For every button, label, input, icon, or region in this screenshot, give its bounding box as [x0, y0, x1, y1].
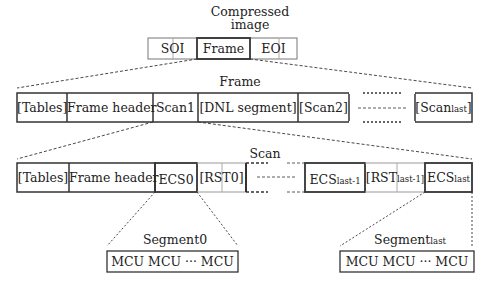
rst-prev-sub: last-1]: [397, 174, 424, 184]
segment0-label: Segment0: [130, 232, 220, 247]
ecs-last-text: ECS: [427, 170, 454, 185]
rst0-cell: [RST0]: [197, 170, 246, 185]
title-line2: image: [200, 17, 300, 32]
compressed-image-title: Compressed image: [200, 4, 300, 32]
scan-last-sub: last: [451, 104, 467, 114]
scan-last-close: ]: [467, 100, 472, 115]
scan-last-text: [Scan: [415, 100, 451, 115]
segment-last-sub: last: [430, 236, 446, 246]
rst-last-1-cell: [RSTlast-1]: [365, 170, 425, 185]
frame-cell: Frame: [197, 41, 250, 56]
ecs-last-sub: last: [454, 174, 470, 184]
frame-header-cell: Frame header: [67, 100, 153, 115]
ecs-prev-text: ECS: [309, 172, 336, 187]
scan2-cell: [Scan2]: [298, 100, 349, 115]
dnl-segment-cell: [DNL segment]: [198, 100, 298, 115]
scan-last-cell: [Scanlast]: [415, 100, 472, 115]
ecs-last-1-cell: ECSlast-1: [305, 172, 365, 187]
segment-last-content: MCU MCU ··· MCU: [340, 254, 474, 269]
scan-tables-cell: [Tables]: [17, 170, 69, 185]
frame-label: Frame: [200, 74, 280, 89]
ecs-prev-sub: last-1: [337, 176, 361, 186]
segment0-content: MCU MCU ··· MCU: [107, 254, 238, 269]
segment-last-text: Segment: [374, 232, 430, 247]
scan-frame-header-cell: Frame header: [69, 170, 155, 185]
rst-prev-text: [RST: [366, 170, 397, 185]
ecs0-cell: ECS0: [155, 172, 197, 187]
segment-last-label: Segmentlast: [365, 232, 455, 247]
scan1-cell: Scan1: [153, 100, 198, 115]
ecs-last-cell: ECSlast: [425, 170, 472, 185]
scan-label: Scan: [240, 146, 290, 161]
soi-cell: SOI: [148, 41, 197, 56]
eoi-cell: EOI: [250, 41, 297, 56]
frame-tables-cell: [Tables]: [17, 100, 67, 115]
